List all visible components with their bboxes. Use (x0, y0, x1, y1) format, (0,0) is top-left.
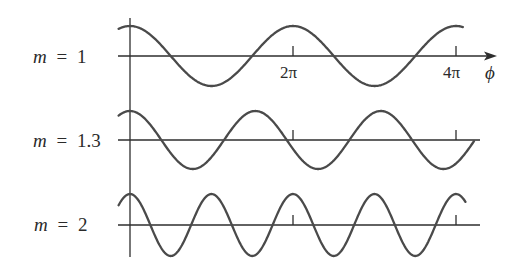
axis-label-phi: ϕ (485, 63, 495, 82)
label-variable: m (33, 46, 47, 67)
row-label-m-1-3: m = 1.3 (33, 131, 101, 150)
row-label-m-2: m = 2 (34, 215, 87, 234)
label-equals: = (56, 130, 67, 151)
label-variable: m (34, 214, 48, 235)
tick-label-2pi: 2π (280, 64, 297, 81)
label-value: 2 (78, 214, 88, 235)
label-variable: m (33, 130, 47, 151)
label-equals: = (56, 46, 67, 67)
label-equals: = (57, 214, 68, 235)
label-value: 1 (77, 46, 87, 67)
row-label-m-1: m = 1 (33, 47, 86, 66)
tick-label-4pi: 4π (443, 64, 460, 81)
label-value: 1.3 (77, 130, 101, 151)
